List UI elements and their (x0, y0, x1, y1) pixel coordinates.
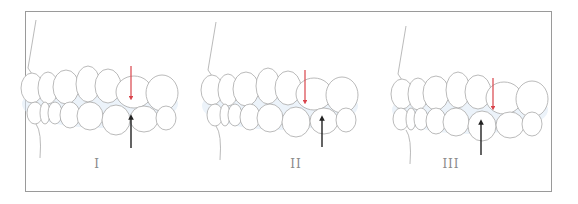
lower-tooth (522, 112, 542, 136)
lower-tooth (468, 111, 496, 141)
upper-tooth (53, 70, 79, 104)
upper-tooth (326, 77, 358, 113)
panel-label-iii: III (442, 157, 459, 171)
chin-profile-line (406, 130, 411, 164)
lower-tooth (310, 108, 338, 134)
lower-tooth (77, 102, 103, 130)
upper-tooth (423, 76, 449, 110)
lower-tooth (496, 112, 524, 138)
lower-tooth (443, 108, 469, 136)
upper-tooth (146, 75, 178, 111)
lower-tooth (130, 106, 158, 132)
panel-label-i: I (94, 157, 100, 171)
lower-tooth (336, 108, 356, 132)
occlusion-illustration (0, 0, 578, 204)
face-profile-line (398, 26, 406, 80)
face-profile-line (28, 20, 36, 74)
panel-label-ii: II (290, 157, 301, 171)
chin-profile-line (36, 124, 41, 158)
chin-profile-line (216, 126, 221, 160)
lower-tooth (156, 106, 176, 130)
face-profile-line (208, 22, 216, 76)
lower-tooth (282, 107, 310, 137)
lower-tooth (102, 105, 130, 135)
lower-tooth (257, 104, 283, 132)
upper-tooth (233, 72, 259, 106)
